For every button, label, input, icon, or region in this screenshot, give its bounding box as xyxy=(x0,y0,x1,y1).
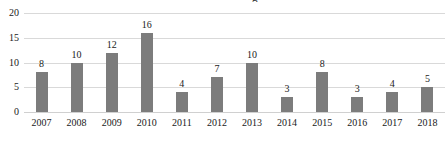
y-tick-label-10: 10 xyxy=(0,58,19,68)
bar-value-label-2012: 7 xyxy=(214,64,219,74)
bar-group-2011: 42011 xyxy=(164,0,199,141)
bar-group-2017: 42017 xyxy=(375,0,410,141)
x-tick-label-2014: 2014 xyxy=(277,117,297,128)
bar-value-label-2014: 3 xyxy=(285,84,290,94)
bar-2017[interactable] xyxy=(386,92,398,112)
bar-value-label-2008: 10 xyxy=(72,50,82,60)
bar-value-label-2013: 10 xyxy=(247,50,257,60)
x-tick-label-2008: 2008 xyxy=(67,117,87,128)
bars-group: 8200710200812200916201042011720121020133… xyxy=(24,0,445,141)
bar-group-2018: 52018 xyxy=(410,0,445,141)
plot-area: 05101520 8200710200812200916201042011720… xyxy=(0,0,445,141)
bar-2009[interactable] xyxy=(106,53,118,112)
y-tick-label-0: 0 xyxy=(0,107,19,117)
bar-2012[interactable] xyxy=(211,77,223,112)
bar-group-2013: 102013 xyxy=(235,0,270,141)
bar-value-label-2010: 16 xyxy=(142,20,152,30)
bar-group-2008: 102008 xyxy=(59,0,94,141)
bar-value-label-2018: 5 xyxy=(425,74,430,84)
y-tick-label-5: 5 xyxy=(0,82,19,92)
bar-group-2012: 72012 xyxy=(199,0,234,141)
x-tick-label-2016: 2016 xyxy=(347,117,367,128)
bar-value-label-2011: 4 xyxy=(179,79,184,89)
x-tick-label-2011: 2011 xyxy=(172,117,192,128)
bar-group-2010: 162010 xyxy=(129,0,164,141)
bar-2015[interactable] xyxy=(316,72,328,112)
y-tick-label-15: 15 xyxy=(0,33,19,43)
bar-value-label-2009: 12 xyxy=(107,40,117,50)
bar-2016[interactable] xyxy=(351,97,363,112)
x-tick-label-2017: 2017 xyxy=(382,117,402,128)
bar-value-label-2016: 3 xyxy=(355,84,360,94)
bar-value-label-2017: 4 xyxy=(390,79,395,89)
bar-2014[interactable] xyxy=(281,97,293,112)
bar-2018[interactable] xyxy=(421,87,433,112)
x-tick-label-2009: 2009 xyxy=(102,117,122,128)
bar-group-2016: 32016 xyxy=(340,0,375,141)
bar-2007[interactable] xyxy=(36,72,48,112)
x-tick-label-2012: 2012 xyxy=(207,117,227,128)
bar-group-2009: 122009 xyxy=(94,0,129,141)
bar-value-label-2007: 8 xyxy=(39,59,44,69)
bar-group-2015: 82015 xyxy=(305,0,340,141)
bar-2010[interactable] xyxy=(141,33,153,112)
chart-figure: g 05101520 82007102008122009162010420117… xyxy=(0,0,445,141)
bar-2011[interactable] xyxy=(176,92,188,112)
x-tick-label-2013: 2013 xyxy=(242,117,262,128)
y-tick-label-20: 20 xyxy=(0,8,19,18)
bar-group-2014: 32014 xyxy=(270,0,305,141)
x-tick-label-2018: 2018 xyxy=(417,117,437,128)
x-tick-label-2010: 2010 xyxy=(137,117,157,128)
bar-2008[interactable] xyxy=(71,63,83,113)
x-tick-label-2015: 2015 xyxy=(312,117,332,128)
x-tick-label-2007: 2007 xyxy=(32,117,52,128)
bar-group-2007: 82007 xyxy=(24,0,59,141)
bar-2013[interactable] xyxy=(246,63,258,113)
bar-value-label-2015: 8 xyxy=(320,59,325,69)
